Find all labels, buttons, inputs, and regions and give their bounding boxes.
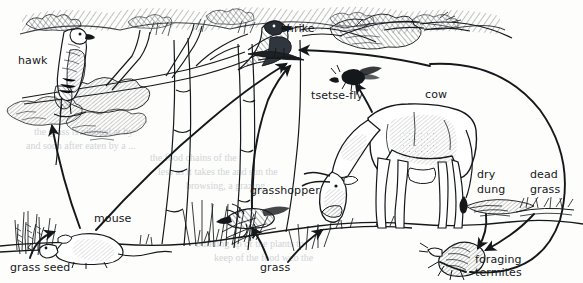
label-dry-dung-line1: dry xyxy=(477,169,495,181)
label-foraging-termites-line2: termites xyxy=(475,267,522,279)
label-cow: cow xyxy=(425,89,447,101)
illustration-canvas xyxy=(0,0,583,283)
label-grass-seed: grass seed xyxy=(10,262,70,274)
label-grass: grass xyxy=(260,262,290,274)
arrow-deadgrass-to-termites xyxy=(486,214,534,250)
label-tsetse-fly: tsetse-fly xyxy=(311,90,363,102)
label-foraging-termites-line1: foraging xyxy=(475,254,522,266)
label-dead-grass-line2: grass xyxy=(530,184,560,196)
arrow-drydung-to-termites xyxy=(478,214,486,248)
label-hawk: hawk xyxy=(18,55,47,67)
arrow-mouse-to-hawk xyxy=(52,126,80,228)
label-shrike: shrike xyxy=(281,23,315,35)
tsetse-fly-figure xyxy=(329,65,382,91)
label-dry-dung-line2: dung xyxy=(477,184,505,196)
cow-figure xyxy=(302,104,477,228)
dry-dung-figure xyxy=(466,200,534,216)
label-grasshopper: grasshopper xyxy=(250,185,320,197)
label-mouse: mouse xyxy=(94,213,131,225)
background-scene xyxy=(0,7,583,280)
arrow-tsetsefly-to-shrike xyxy=(300,50,430,66)
food-web-diagram: the grass is nibbled at by and soon afte… xyxy=(0,0,583,283)
label-dead-grass-line1: dead xyxy=(530,169,558,181)
